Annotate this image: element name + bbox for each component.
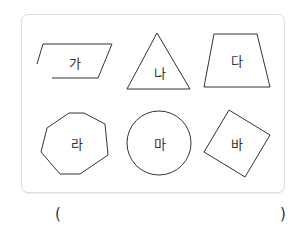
answer-blank[interactable]	[70, 205, 270, 225]
label-ma: 마	[154, 137, 166, 152]
label-ga: 가	[69, 56, 81, 71]
label-ra: 라	[71, 137, 83, 152]
label-na: 나	[154, 66, 166, 81]
answer-open-paren: (	[55, 205, 61, 223]
answer-close-paren: )	[280, 205, 286, 223]
label-ba: 바	[231, 137, 243, 152]
label-da: 다	[231, 54, 243, 69]
